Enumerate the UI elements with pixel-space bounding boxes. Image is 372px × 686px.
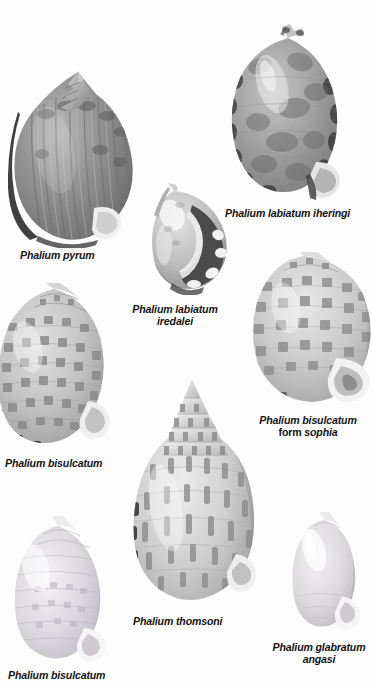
caption-phalium-glabratum-angasi: Phalium glabratum angasi [268, 641, 370, 666]
caption-line-1: Phalium bisulcatum [259, 414, 356, 426]
caption-phalium-bisulcatum-bottom: Phalium bisulcatum [8, 669, 105, 681]
caption-form-epithet: sophia [304, 426, 337, 438]
specimen-image-phalium-glabratum-angasi [290, 512, 364, 634]
specimen-image-phalium-pyrum [8, 58, 140, 248]
specimen-image-phalium-bisulcatum-bottom [8, 516, 112, 668]
caption-phalium-pyrum: Phalium pyrum [20, 249, 95, 261]
caption-form-word: form [279, 426, 305, 438]
caption-phalium-bisulcatum-form-sophia: Phalium bisulcatum form sophia [243, 414, 372, 439]
specimen-image-phalium-thomsoni [128, 376, 262, 608]
specimen-image-phalium-bisulcatum-form-sophia [244, 252, 372, 412]
caption-phalium-labiatum-iheringi: Phalium labiatum iheringi [225, 207, 350, 219]
caption-phalium-bisulcatum-left: Phalium bisulcatum [5, 457, 102, 469]
caption-line-2: iredalei [157, 315, 193, 327]
specimen-image-phalium-labiatum-iredalei [146, 183, 234, 295]
specimen-image-phalium-bisulcatum-left [0, 283, 118, 455]
caption-line-2: angasi [303, 653, 336, 665]
caption-line-1: Phalium glabratum [273, 641, 366, 653]
specimen-plate: Phalium pyrum [0, 0, 372, 686]
specimen-image-phalium-labiatum-iheringi [224, 22, 350, 208]
caption-phalium-thomsoni: Phalium thomsoni [133, 615, 222, 627]
caption-phalium-labiatum-iredalei: Phalium labiatum iredalei [113, 303, 237, 328]
caption-line-1: Phalium labiatum [132, 303, 217, 315]
